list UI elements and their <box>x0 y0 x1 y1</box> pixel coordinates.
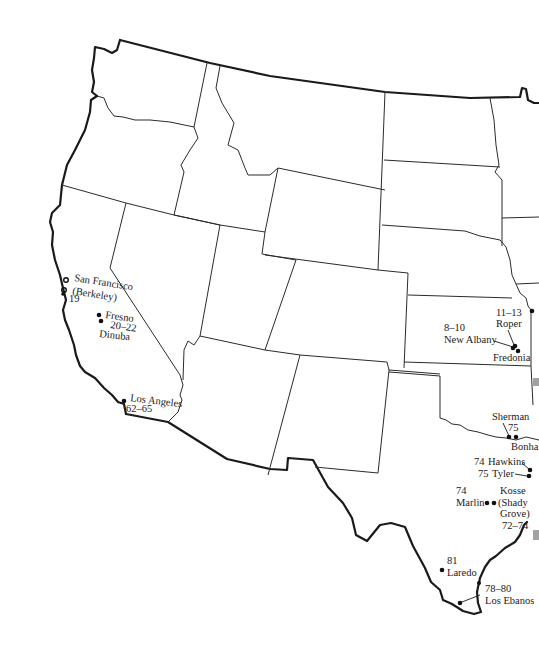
label-laredo: Laredo <box>447 567 477 578</box>
ne-sd-border <box>382 225 506 247</box>
label-dinuba: Dinuba <box>99 328 131 342</box>
pacific-coast <box>50 96 126 414</box>
co-eastern-border <box>404 273 408 368</box>
location-los-ebanos[interactable]: 78–80 Los Ebanos <box>458 581 535 606</box>
location-marlin[interactable]: 74 Marlin <box>456 485 489 508</box>
co-ne-border <box>378 270 408 273</box>
or-id-border <box>174 127 198 215</box>
id-mt-border <box>216 66 270 175</box>
washington-coast <box>92 40 120 96</box>
print-smudge <box>533 530 539 540</box>
label-pages-74-marlin: 74 <box>456 485 467 496</box>
nm-tx-border <box>315 362 440 473</box>
location-fredonia[interactable]: Fredonia <box>493 349 531 363</box>
az-nm-border <box>268 355 300 475</box>
location-roper[interactable]: 11–13 Roper <box>496 307 522 348</box>
label-pages-62-65: 62–65 <box>126 403 152 414</box>
location-san-francisco[interactable]: San Francisco (Berkeley) 19 <box>61 272 134 304</box>
nd-sd-border <box>384 160 500 167</box>
wy-sd-border <box>378 92 385 270</box>
label-pages-72-74: 72–74 <box>502 520 529 531</box>
nv-ut-border <box>183 225 220 380</box>
western-us-map: San Francisco (Berkeley) 19 Fresno 20–22… <box>0 0 539 657</box>
label-pages-8-10: 8–10 <box>444 322 465 333</box>
location-tyler[interactable]: 75 Tyler <box>478 468 531 479</box>
wa-or-border <box>97 96 194 127</box>
label-grove: Grove) <box>500 508 530 520</box>
id-wy-border <box>265 168 278 232</box>
or-ca-nv-border <box>62 185 265 232</box>
label-new-albany: New Albany <box>444 334 498 345</box>
print-smudge <box>533 378 539 386</box>
northern-border <box>120 40 539 103</box>
label-roper: Roper <box>496 318 522 329</box>
id-ut-border <box>174 215 220 225</box>
location-los-angeles[interactable]: Los Angeles 62–65 <box>122 392 183 414</box>
location-kosse[interactable]: Kosse (Shady Grove) 72–74 <box>492 485 531 531</box>
label-fredonia: Fredonia <box>493 352 531 363</box>
location-laredo[interactable]: 81 Laredo <box>440 555 477 578</box>
label-pages-74-hawkins: 74 <box>474 456 485 467</box>
label-bonham: Bonha <box>511 441 539 452</box>
ks-ne-border <box>408 295 512 298</box>
label-pages-78-80: 78–80 <box>485 583 511 594</box>
label-pages-19: 19 <box>69 293 80 304</box>
mexico-border <box>126 414 527 614</box>
four-corners-parallel <box>200 336 387 362</box>
label-kosse: Kosse <box>500 485 526 496</box>
label-marlin: Marlin <box>456 497 485 508</box>
label-los-ebanos: Los Ebanos <box>485 595 534 606</box>
label-pages-81: 81 <box>447 555 458 566</box>
marker-kansas-border <box>530 309 535 314</box>
ok-ar-border <box>531 366 533 405</box>
ut-co-border <box>265 260 296 350</box>
label-pages-11-13: 11–13 <box>496 307 522 318</box>
label-hawkins: Hawkins <box>488 456 525 467</box>
ok-panhandle-border <box>389 372 440 418</box>
wa-id-border <box>194 63 207 127</box>
mt-southern-border <box>270 168 385 190</box>
ia-mo-border <box>516 283 539 284</box>
label-sherman: Sherman <box>492 411 530 422</box>
mn-ia-border <box>502 217 539 218</box>
wy-co-border <box>265 255 378 270</box>
location-sherman[interactable]: Sherman 75 <box>492 411 530 439</box>
label-pages-75-tyler: 75 <box>478 468 489 479</box>
label-tyler: Tyler <box>492 468 515 479</box>
dakotas-eastern-border <box>490 98 502 246</box>
ut-wy-border <box>262 232 296 260</box>
label-pages-75-sherman: 75 <box>508 422 519 433</box>
